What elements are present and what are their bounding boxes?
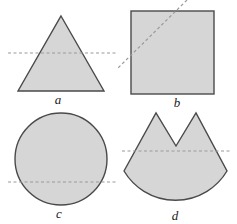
notched-sector-shape <box>124 113 227 200</box>
figure-c: c <box>8 113 118 221</box>
label-b: b <box>174 95 181 110</box>
figure-a: a <box>8 16 118 107</box>
label-c: c <box>56 206 62 221</box>
square-shape <box>131 11 214 94</box>
figure-d: d <box>122 113 232 223</box>
label-a: a <box>55 92 62 107</box>
label-d: d <box>172 208 179 223</box>
shapes-diagram: a b c d <box>0 0 237 224</box>
figure-b: b <box>117 0 214 110</box>
circle-shape <box>15 113 107 205</box>
